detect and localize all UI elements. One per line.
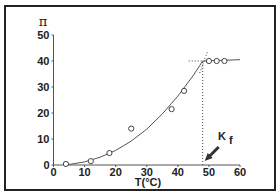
data-point [206, 58, 211, 63]
y-axis-title: π [39, 14, 48, 29]
x-tick-label: 60 [234, 166, 246, 178]
y-tick-label: 40 [37, 55, 49, 67]
annotations [189, 51, 219, 165]
y-tick-label: 0 [43, 159, 49, 171]
x-axis-title: T(°C) [135, 176, 162, 188]
x-tick-label: 50 [203, 166, 215, 178]
chart-plot: 010203040506001020304050 π T(°C) K f [0, 0, 280, 196]
y-tick-label: 50 [37, 29, 49, 41]
x-tick-label: 40 [172, 166, 184, 178]
data-point [107, 150, 112, 155]
kf-subscript: f [229, 134, 233, 146]
y-tick-label: 30 [37, 81, 49, 93]
x-tick-label: 0 [50, 166, 56, 178]
data-point [63, 161, 68, 166]
kf-annotation: K f [218, 130, 233, 146]
data-point [222, 58, 227, 63]
y-tick-label: 10 [37, 133, 49, 145]
fit-curve-line [66, 61, 203, 165]
axes: 010203040506001020304050 [37, 29, 246, 178]
x-tick-label: 10 [78, 166, 90, 178]
data-point [214, 58, 219, 63]
data-point [88, 159, 93, 164]
x-tick-label: 20 [110, 166, 122, 178]
data-point [181, 88, 186, 93]
data-point [169, 107, 174, 112]
kf-label: K [218, 130, 226, 142]
data-point [129, 126, 134, 131]
y-tick-label: 20 [37, 107, 49, 119]
